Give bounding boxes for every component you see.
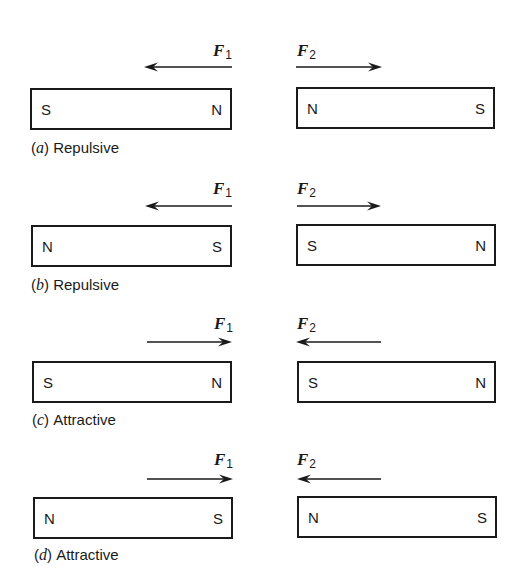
- force-label-f1: F1: [214, 315, 233, 337]
- pole-label: N: [44, 511, 55, 526]
- left-magnet: S N: [32, 361, 232, 403]
- pole-label: N: [211, 375, 222, 390]
- paren: ): [44, 411, 49, 428]
- pole-label: S: [477, 510, 487, 525]
- panel-a-repulsive: F1 F2 S N N S (a) Repulsive: [0, 42, 521, 178]
- force-symbol: F: [297, 179, 308, 198]
- caption-text: Attractive: [56, 546, 119, 563]
- arrow-right-icon: [147, 337, 232, 347]
- panel-caption: (c) Attractive: [32, 412, 116, 428]
- caption-letter: a: [36, 139, 44, 156]
- right-magnet: S N: [297, 361, 496, 403]
- force-label-f2: F2: [297, 315, 316, 337]
- pole-label: S: [41, 102, 51, 117]
- arrow-left-icon: [297, 474, 381, 484]
- pole-label: S: [475, 101, 485, 116]
- force-label-f2: F2: [297, 42, 316, 64]
- right-magnet: N S: [297, 496, 497, 538]
- force-symbol: F: [297, 314, 308, 333]
- force-symbol: F: [297, 450, 308, 469]
- force-subscript: 2: [309, 186, 316, 200]
- pole-label: S: [43, 375, 53, 390]
- arrow-right-icon: [297, 201, 381, 211]
- right-magnet: S N: [296, 224, 496, 266]
- force-label-f1: F1: [214, 451, 233, 473]
- caption-text: Repulsive: [53, 276, 119, 293]
- force-symbol: F: [214, 450, 225, 469]
- paren: ): [47, 546, 52, 563]
- pole-label: N: [475, 238, 486, 253]
- arrow-left-icon: [145, 201, 232, 211]
- pole-label: N: [475, 375, 486, 390]
- pole-label: S: [212, 239, 222, 254]
- right-magnet: N S: [296, 87, 495, 129]
- paren: ): [44, 276, 49, 293]
- left-magnet: N S: [33, 497, 233, 539]
- caption-text: Repulsive: [53, 139, 119, 156]
- force-subscript: 2: [309, 321, 316, 335]
- force-label-f1: F1: [213, 42, 232, 64]
- pole-label: N: [42, 239, 53, 254]
- force-subscript: 2: [309, 48, 316, 62]
- force-subscript: 1: [226, 321, 233, 335]
- force-symbol: F: [213, 41, 224, 60]
- caption-letter: d: [39, 546, 47, 563]
- force-label-f2: F2: [297, 180, 316, 202]
- arrow-left-icon: [296, 337, 381, 347]
- arrow-left-icon: [144, 62, 232, 72]
- panel-d-attractive: F1 F2 N S N S (d) Attractive: [0, 451, 521, 578]
- force-label-f1: F1: [213, 180, 232, 202]
- caption-letter: b: [36, 276, 44, 293]
- force-symbol: F: [214, 314, 225, 333]
- pole-label: S: [213, 511, 223, 526]
- paren: ): [44, 139, 49, 156]
- panel-caption: (a) Repulsive: [31, 140, 119, 156]
- force-subscript: 2: [309, 457, 316, 471]
- caption-text: Attractive: [53, 411, 116, 428]
- pole-label: S: [308, 375, 318, 390]
- force-subscript: 1: [225, 48, 232, 62]
- pole-label: N: [307, 101, 318, 116]
- left-magnet: S N: [30, 88, 232, 130]
- left-magnet: N S: [31, 225, 232, 267]
- arrow-right-icon: [147, 474, 233, 484]
- panel-b-repulsive: F1 F2 N S S N (b) Repulsive: [0, 180, 521, 316]
- arrow-right-icon: [296, 62, 382, 72]
- force-subscript: 1: [225, 186, 232, 200]
- force-symbol: F: [213, 179, 224, 198]
- pole-label: N: [211, 102, 222, 117]
- force-symbol: F: [297, 41, 308, 60]
- panel-c-attractive: F1 F2 S N S N (c) Attractive: [0, 315, 521, 451]
- pole-label: N: [308, 510, 319, 525]
- force-label-f2: F2: [297, 451, 316, 473]
- pole-label: S: [307, 238, 317, 253]
- panel-caption: (b) Repulsive: [31, 277, 119, 293]
- panel-caption: (d) Attractive: [34, 547, 119, 563]
- force-subscript: 1: [226, 457, 233, 471]
